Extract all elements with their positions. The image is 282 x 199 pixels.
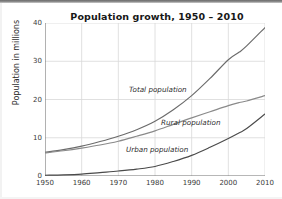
x-tick-2000: 2000	[219, 179, 237, 187]
y-tick-1: 10	[33, 134, 42, 142]
chart-figure: Population growth, 1950 – 2010 Populatio…	[0, 0, 282, 199]
series-annotation-urban-population: Urban population	[126, 145, 188, 154]
scan-bottom-edge	[0, 197, 282, 199]
x-tick-1980: 1980	[146, 179, 164, 187]
scan-left-edge	[0, 3, 2, 199]
series-annotation-total-population: Total population	[129, 85, 187, 94]
y-tick-3: 30	[33, 57, 42, 65]
x-tick-2010: 2010	[256, 179, 274, 187]
chart-title: Population growth, 1950 – 2010	[46, 11, 268, 22]
y-axis-label: Population in millions	[12, 15, 21, 111]
x-tick-1960: 1960	[73, 179, 91, 187]
series-annotation-rural-population: Rural population	[161, 118, 220, 127]
y-tick-2: 20	[33, 96, 42, 104]
x-tick-1950: 1950	[36, 179, 54, 187]
scan-top-edge	[0, 0, 282, 3]
plot-area: 0 10 20 30 40 1950 1960 1970 1980 1990 2…	[45, 23, 265, 176]
x-tick-1990: 1990	[183, 179, 201, 187]
y-tick-4: 40	[33, 19, 42, 27]
x-tick-1970: 1970	[109, 179, 127, 187]
